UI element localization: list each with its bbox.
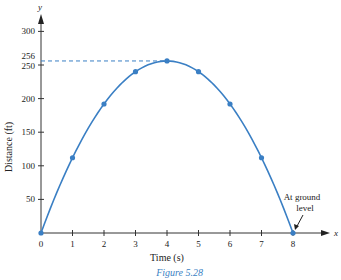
data-point: [290, 230, 295, 235]
y-tick-label: 250: [22, 61, 36, 71]
x-tick-label: 8: [291, 239, 296, 249]
data-point: [227, 101, 232, 106]
x-tick-label: 7: [259, 239, 264, 249]
x-axis-title: Time (s): [150, 252, 184, 264]
annotation-arrowhead-icon: [294, 224, 299, 230]
y-tick-label: 300: [22, 26, 36, 36]
chart: xy01234567850100150200250256300At ground…: [0, 0, 341, 280]
x-axis-letter: x: [333, 228, 338, 238]
annotation-text: level: [296, 203, 314, 213]
x-tick-label: 5: [196, 239, 201, 249]
data-point: [196, 69, 201, 74]
x-axis-arrow-icon: [321, 230, 330, 236]
data-point: [101, 101, 106, 106]
data-point: [133, 69, 138, 74]
x-tick-label: 6: [228, 239, 233, 249]
x-tick-label: 3: [133, 239, 138, 249]
data-point: [38, 230, 43, 235]
y-tick-label: 100: [22, 161, 36, 171]
data-point: [70, 155, 75, 160]
y-axis-title: Distance (ft): [3, 122, 15, 172]
data-point: [259, 155, 264, 160]
y-tick-label: 50: [26, 194, 36, 204]
y-axis-arrow-icon: [38, 14, 44, 24]
annotation-text: At ground: [284, 192, 321, 202]
data-point: [164, 58, 169, 63]
x-tick-label: 4: [165, 239, 170, 249]
x-tick-label: 2: [102, 239, 107, 249]
y-axis-letter: y: [37, 2, 42, 12]
distance-curve: [41, 61, 293, 233]
x-tick-label: 1: [70, 239, 75, 249]
y-tick-label: 256: [22, 51, 36, 61]
figure-caption: Figure 5.28: [155, 267, 203, 278]
y-tick-label: 200: [22, 94, 36, 104]
x-tick-label: 0: [39, 239, 44, 249]
y-tick-label: 150: [22, 127, 36, 137]
